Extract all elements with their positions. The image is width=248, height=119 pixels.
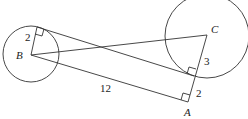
right-angle-mark-q bbox=[187, 67, 196, 74]
segment-bp bbox=[31, 27, 37, 55]
label-radius-b: 2 bbox=[25, 31, 31, 43]
label-segment-qa: 2 bbox=[196, 87, 202, 99]
geometry-diagram: B C A 2 3 2 12 bbox=[0, 0, 248, 119]
segment-ba bbox=[31, 55, 188, 102]
label-a: A bbox=[183, 106, 191, 118]
label-segment-ba: 12 bbox=[100, 82, 111, 94]
label-segment-cq: 3 bbox=[204, 55, 210, 67]
label-b: B bbox=[16, 49, 23, 61]
label-c: C bbox=[211, 23, 219, 35]
